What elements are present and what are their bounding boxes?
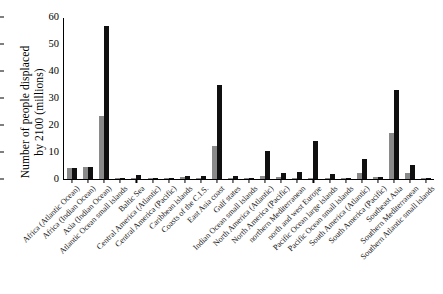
plot-area: 0102030405060 [63, 18, 434, 180]
bar-group [338, 18, 354, 179]
x-axis-tick-mark [297, 179, 298, 183]
bar-group [257, 18, 273, 179]
bar-black [362, 159, 367, 179]
bar-series-container [64, 18, 434, 179]
bar-black [120, 178, 125, 179]
x-axis-tick-mark [409, 179, 410, 183]
x-axis-labels: Africa (Atlantic Ocean)Africa (Indian Oc… [63, 184, 434, 294]
x-axis-tick-mark [184, 179, 185, 183]
bar-black [185, 176, 190, 179]
bar-chart-figure: Number of people displaced by 2100 (mill… [0, 0, 443, 294]
x-axis-tick-mark [426, 179, 427, 183]
bar-group [112, 18, 128, 179]
x-axis-tick-mark [281, 179, 282, 183]
x-axis-tick-mark [168, 179, 169, 183]
bar-group [96, 18, 112, 179]
bar-black [330, 174, 335, 179]
bar-group [322, 18, 338, 179]
bar-group [289, 18, 305, 179]
y-axis-title-line-1: Number of people displaced [18, 17, 32, 207]
bar-black [297, 172, 302, 179]
x-axis-tick-mark [345, 179, 346, 183]
bar-black [394, 90, 399, 179]
bar-group [209, 18, 225, 179]
y-axis-title-line-2: by 2100 (millions) [32, 17, 46, 207]
bar-black [169, 178, 174, 179]
bar-group [241, 18, 257, 179]
bar-black [88, 167, 93, 179]
bar-black [201, 176, 206, 179]
bar-group [305, 18, 321, 179]
bar-group [161, 18, 177, 179]
bar-black [233, 176, 238, 179]
bar-group [386, 18, 402, 179]
bar-group [273, 18, 289, 179]
x-axis-tick-mark [216, 179, 217, 183]
x-axis-tick-mark [152, 179, 153, 183]
x-axis-tick-mark [377, 179, 378, 183]
bar-group [418, 18, 434, 179]
x-axis-tick-mark [329, 179, 330, 183]
bar-group [193, 18, 209, 179]
x-axis-tick-mark [393, 179, 394, 183]
bar-black [281, 173, 286, 179]
x-axis-tick-mark [200, 179, 201, 183]
x-axis-tick-mark [120, 179, 121, 183]
y-axis-tick-mark [0, 98, 4, 99]
x-axis-tick-mark [88, 179, 89, 183]
y-axis-tick-mark [0, 44, 4, 45]
y-axis-tick-mark [0, 17, 4, 18]
bar-black [265, 151, 270, 179]
bar-group [64, 18, 80, 179]
x-axis-tick-mark [249, 179, 250, 183]
x-axis-tick-mark [136, 179, 137, 183]
y-axis-tick-mark [0, 71, 4, 72]
y-axis-title: Number of people displaced by 2100 (mill… [18, 17, 48, 207]
x-axis-tick-mark [313, 179, 314, 183]
x-axis-tick-mark [72, 179, 73, 183]
bar-group [402, 18, 418, 179]
bar-group [80, 18, 96, 179]
bar-black [346, 178, 351, 179]
y-axis-tick-mark [0, 125, 4, 126]
x-axis-tick-mark [104, 179, 105, 183]
x-axis-tick-mark [232, 179, 233, 183]
bar-black [426, 178, 431, 179]
bar-black [410, 165, 415, 179]
bar-black [104, 26, 109, 179]
bar-group [144, 18, 160, 179]
bar-group [177, 18, 193, 179]
x-axis-tick-mark [265, 179, 266, 183]
bar-black [153, 178, 158, 179]
bar-group [354, 18, 370, 179]
bar-group [370, 18, 386, 179]
bar-black [217, 85, 222, 179]
bar-black [72, 168, 77, 179]
y-axis-tick-mark [0, 152, 4, 153]
bar-group [225, 18, 241, 179]
bar-black [249, 178, 254, 179]
bar-black [378, 177, 383, 179]
bar-black [313, 141, 318, 179]
bar-black [136, 175, 141, 179]
bar-group [128, 18, 144, 179]
x-axis-tick-mark [361, 179, 362, 183]
y-axis-tick-mark [0, 179, 4, 180]
